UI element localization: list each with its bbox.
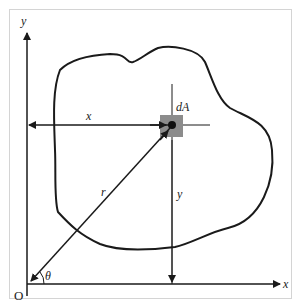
y-distance-label: y <box>176 187 183 201</box>
diagram-canvas: y x O dA x y r θ <box>0 0 301 308</box>
element-label: dA <box>176 100 190 114</box>
origin-label: O <box>14 288 23 303</box>
x-axis-label: x <box>282 277 289 291</box>
x-distance-label: x <box>85 109 92 123</box>
angle-label: θ <box>45 269 51 283</box>
y-axis-label: y <box>20 14 27 28</box>
element-point <box>168 121 176 129</box>
radius-label: r <box>101 185 106 199</box>
radius-arrow <box>31 128 170 281</box>
angle-arc <box>40 272 44 284</box>
